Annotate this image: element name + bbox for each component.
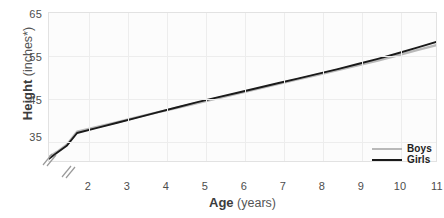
x-axis-title-unit: (years) <box>237 196 276 210</box>
y-tick-label-35: 35 <box>14 131 42 143</box>
gridline-vertical <box>128 13 129 161</box>
gridline-horizontal <box>49 99 436 100</box>
gridline-vertical <box>323 13 324 161</box>
gridline-vertical <box>89 13 90 161</box>
series-line-boys <box>49 45 437 157</box>
gridline-vertical <box>245 13 246 161</box>
x-tick-label-10: 10 <box>388 180 412 192</box>
gridline-vertical <box>362 13 363 161</box>
x-tick-label-8: 8 <box>310 180 334 192</box>
x-tick-label-4: 4 <box>154 180 178 192</box>
x-tick-label-2: 2 <box>76 180 100 192</box>
legend-item-boys: Boys <box>372 143 432 154</box>
x-tick-label-7: 7 <box>271 180 295 192</box>
x-axis-break-icon <box>60 164 78 180</box>
gridline-vertical <box>206 13 207 161</box>
gridline-vertical <box>401 13 402 161</box>
legend-label-boys: Boys <box>407 143 432 154</box>
y-axis-title: Height (inches*) <box>20 0 35 149</box>
legend-item-girls: Girls <box>372 154 432 165</box>
x-tick-label-3: 3 <box>115 180 139 192</box>
x-tick-label-11: 11 <box>425 180 444 192</box>
y-tick-label-65: 65 <box>14 8 42 20</box>
legend-label-girls: Girls <box>407 154 430 165</box>
data-series-layer <box>49 13 437 162</box>
legend-swatch-girls <box>372 159 402 161</box>
y-axis-break-icon <box>41 152 59 168</box>
gridline-horizontal <box>49 56 436 57</box>
x-axis-title: Age (years) <box>48 195 437 210</box>
gridline-vertical <box>167 13 168 161</box>
plot-area <box>48 12 437 162</box>
gridline-vertical <box>284 13 285 161</box>
legend-swatch-boys <box>372 148 402 150</box>
x-axis-title-bold: Age <box>209 195 234 210</box>
x-tick-label-5: 5 <box>193 180 217 192</box>
growth-chart: Height (inches*) 65 55 45 35 2 3 4 5 6 7… <box>0 0 444 218</box>
y-tick-label-55: 55 <box>14 51 42 63</box>
x-tick-label-6: 6 <box>232 180 256 192</box>
x-tick-label-9: 9 <box>349 180 373 192</box>
legend: Boys Girls <box>372 143 432 165</box>
y-tick-label-45: 45 <box>14 94 42 106</box>
